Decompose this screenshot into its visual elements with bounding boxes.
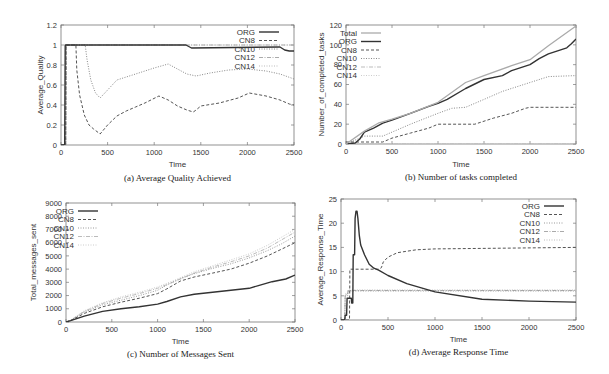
series-cn12 <box>61 45 294 145</box>
series-total <box>346 26 576 144</box>
series-org <box>341 211 576 320</box>
x-tick-label: 2000 <box>521 323 538 332</box>
legend-label: CN14 <box>337 71 358 80</box>
x-tick-label: 1000 <box>149 325 166 334</box>
y-tick-label: 10 <box>329 267 337 276</box>
x-tick-label: 2500 <box>286 148 303 157</box>
x-axis-label: Time <box>172 337 190 346</box>
x-tick-label: 1000 <box>146 148 163 157</box>
series-cn10 <box>61 45 294 145</box>
y-tick-label: 2000 <box>45 291 62 300</box>
figure-caption: (a) Average Quality Achieved <box>124 173 232 183</box>
x-axis-label: Time <box>169 160 187 169</box>
x-tick-label: 500 <box>382 323 395 332</box>
y-axis-label: Average_Quality <box>36 56 45 115</box>
y-tick-label: 0 <box>338 140 342 149</box>
chart-panel-tasks-completed: 05001000150020002500020406080100120TimeN… <box>317 21 584 182</box>
chart-panel-messages-sent: 0500100015002000250001000200030004000500… <box>29 199 303 359</box>
y-axis-label: Total_messages_sent <box>29 223 38 301</box>
series-cn8 <box>66 243 295 322</box>
x-tick-label: 1500 <box>474 323 491 332</box>
y-tick-label: 40 <box>334 100 342 109</box>
x-tick-label: 0 <box>339 323 343 332</box>
y-tick-label: 0.6 <box>47 81 57 90</box>
y-tick-label: 0 <box>58 318 62 327</box>
x-tick-label: 2500 <box>568 147 585 156</box>
x-tick-label: 1500 <box>476 147 493 156</box>
chart-panel-average-quality: 0500100015002000250000.20.40.60.811.2Tim… <box>36 21 302 183</box>
series-cn12 <box>66 232 295 322</box>
y-tick-label: 1.2 <box>47 21 57 30</box>
x-tick-label: 500 <box>106 325 119 334</box>
x-tick-label: 2500 <box>287 325 304 334</box>
y-axis-label: Number_of_completed_tasks <box>317 32 326 136</box>
y-tick-label: 60 <box>334 80 342 89</box>
x-axis-label: Time <box>450 335 468 344</box>
x-tick-label: 1500 <box>192 148 209 157</box>
y-tick-label: 15 <box>329 243 337 252</box>
y-tick-label: 3000 <box>45 278 62 287</box>
y-tick-label: 1 <box>53 41 57 50</box>
x-tick-label: 1000 <box>427 323 444 332</box>
series-org <box>61 45 294 145</box>
x-tick-label: 0 <box>64 325 68 334</box>
y-tick-label: 4000 <box>45 265 62 274</box>
series-cn14 <box>341 290 576 320</box>
y-tick-label: 0 <box>53 141 57 150</box>
y-tick-label: 0 <box>333 316 337 325</box>
x-tick-label: 2000 <box>239 148 256 157</box>
y-tick-label: 20 <box>329 219 337 228</box>
plot-frame <box>346 25 576 144</box>
y-tick-label: 0.2 <box>47 121 57 130</box>
y-axis-label: Average_Response_Time <box>316 213 325 306</box>
x-tick-label: 0 <box>344 147 348 156</box>
figure-caption: (b) Number of tasks completed <box>405 172 517 182</box>
y-tick-label: 0.8 <box>47 61 57 70</box>
plot-frame <box>66 203 295 322</box>
y-tick-label: 5 <box>333 292 337 301</box>
series-cn8 <box>341 247 576 320</box>
plot-frame <box>61 25 294 145</box>
x-tick-label: 500 <box>101 148 114 157</box>
x-tick-label: 2000 <box>241 325 258 334</box>
x-tick-label: 2000 <box>522 147 539 156</box>
series-org <box>346 39 576 144</box>
y-tick-label: 25 <box>329 195 337 204</box>
legend-label: CN14 <box>520 236 541 245</box>
series-cn8 <box>61 45 294 145</box>
x-tick-label: 1500 <box>195 325 212 334</box>
x-tick-label: 500 <box>386 147 399 156</box>
series-org <box>66 275 295 322</box>
legend-label: CN14 <box>235 62 256 71</box>
figure-caption: (c) Number of Messages Sent <box>127 349 234 359</box>
figure: 0500100015002000250000.20.40.60.811.2Tim… <box>0 0 609 374</box>
x-axis-label: Time <box>452 160 470 169</box>
figure-caption: (d) Average Response Time <box>409 347 509 357</box>
y-tick-label: 1000 <box>45 304 62 313</box>
y-tick-label: 20 <box>334 120 342 129</box>
legend-label: CN14 <box>54 241 75 250</box>
series-cn14 <box>61 45 294 145</box>
x-tick-label: 0 <box>59 148 63 157</box>
chart-panel-response-time: 050010001500200025000510152025TimeAverag… <box>316 195 584 357</box>
y-tick-label: 0.4 <box>47 101 57 110</box>
y-tick-label: 5000 <box>45 252 62 261</box>
x-tick-label: 1000 <box>430 147 447 156</box>
x-tick-label: 2500 <box>568 323 585 332</box>
